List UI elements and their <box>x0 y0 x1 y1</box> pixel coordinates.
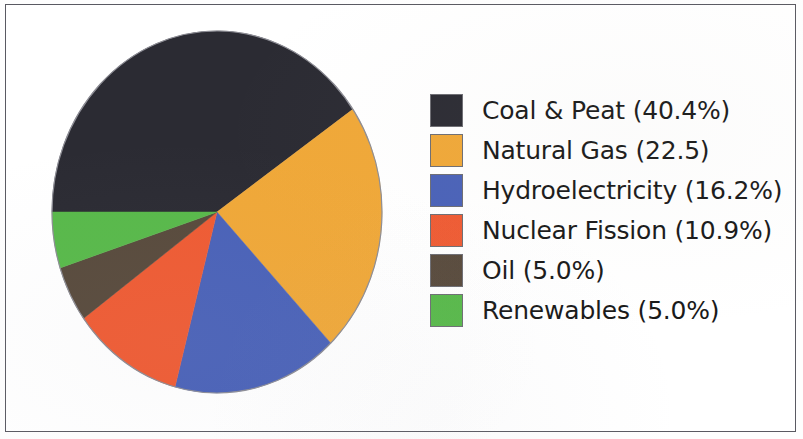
legend-item[interactable]: Nuclear Fission (10.9%) <box>430 212 790 252</box>
legend-swatch <box>430 294 463 327</box>
legend-item[interactable]: Coal & Peat (40.4%) <box>430 92 790 132</box>
legend-swatch <box>430 174 463 207</box>
legend-label: Natural Gas (22.5) <box>482 132 709 170</box>
legend-swatch <box>430 94 463 127</box>
legend-item[interactable]: Hydroelectricity (16.2%) <box>430 172 790 212</box>
legend-label: Hydroelectricity (16.2%) <box>482 172 782 210</box>
legend-label: Oil (5.0%) <box>482 252 605 290</box>
legend-item[interactable]: Natural Gas (22.5) <box>430 132 790 172</box>
legend-label: Coal & Peat (40.4%) <box>482 92 730 130</box>
legend-label: Renewables (5.0%) <box>482 292 719 330</box>
legend-swatch <box>430 214 463 247</box>
legend-swatch <box>430 254 463 287</box>
plot-area: Coal & Peat (40.4%)Natural Gas (22.5)Hyd… <box>0 0 803 439</box>
chart-legend: Coal & Peat (40.4%)Natural Gas (22.5)Hyd… <box>430 92 790 332</box>
legend-label: Nuclear Fission (10.9%) <box>482 212 772 250</box>
pie-chart-figure: Coal & Peat (40.4%)Natural Gas (22.5)Hyd… <box>0 0 803 439</box>
legend-item[interactable]: Renewables (5.0%) <box>430 292 790 332</box>
pie-slices <box>52 31 382 393</box>
legend-item[interactable]: Oil (5.0%) <box>430 252 790 292</box>
pie-chart <box>36 22 406 407</box>
legend-swatch <box>430 134 463 167</box>
